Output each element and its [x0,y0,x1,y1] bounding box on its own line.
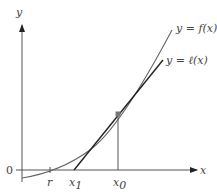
x1-label: x1 [69,176,82,192]
origin-label: 0 [6,164,13,177]
newton-method-diagram: y x 0 y = f(x) y = ℓ(x) r x1 x0 [0,0,217,193]
f-label: y = f(x) [175,22,217,35]
x0-label: x0 [113,176,126,192]
curve-f [22,30,172,178]
tangent-point [116,112,121,117]
r-label: r [47,176,53,189]
x-axis-label: x [200,164,207,177]
l-label: y = ℓ(x) [165,54,208,67]
y-axis-label: y [15,6,23,19]
